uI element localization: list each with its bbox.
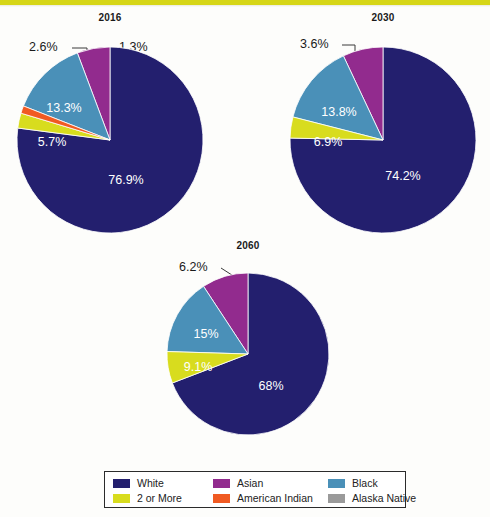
legend-item-alaska-native[interactable]: Alaska Native [328,493,416,504]
pie-value-white-2030: 74.2% [385,169,420,183]
legend-label-black: Black [352,478,378,489]
legend-swatch-white-icon [113,479,130,488]
pie-value-asian-2016: 5.7% [38,135,67,149]
chart-title-2060: 2060 [140,240,356,251]
pie-chart-2030: 2030 3.6% 74.2% 13.8% 6.9% [275,12,490,240]
legend-label-american-indian: American Indian [237,493,313,504]
pie-chart-2016: 2016 2.6% 1.3% 76.9% 13.3% [2,12,218,240]
legend-item-asian[interactable]: Asian [213,478,328,489]
top-accent-band-shadow [0,5,490,7]
pie-graphic-2030: 74.2% 13.8% 6.9% [275,42,490,242]
chart-page: 2016 2.6% 1.3% 76.9% 13.3% [0,0,490,517]
legend-swatch-american-indian-icon [213,494,230,503]
pie-graphic-2016: 76.9% 13.3% 5.7% [2,42,218,242]
pie-value-black-2030: 13.8% [321,105,356,119]
legend-swatch-black-icon [328,479,345,488]
chart-legend: White Asian Black 2 or More American Ind… [104,471,406,508]
legend-swatch-alaska-native-icon [328,494,345,503]
legend-label-two-or-more: 2 or More [137,493,182,504]
chart-title-2016: 2016 [2,12,218,23]
pie-chart-2060: 2060 6.2% 68% 15% 9.1% [140,240,356,450]
legend-item-two-or-more[interactable]: 2 or More [113,493,213,504]
legend-item-american-indian[interactable]: American Indian [213,493,328,504]
pie-value-asian-2060: 9.1% [184,360,213,374]
pie-value-white-2060: 68% [258,379,283,393]
legend-item-white[interactable]: White [113,478,213,489]
pie-value-asian-2030: 6.9% [314,135,343,149]
legend-label-asian: Asian [237,478,263,489]
legend-swatch-asian-icon [213,479,230,488]
pie-value-black-2060: 15% [193,327,218,341]
pie-graphic-2060: 68% 15% 9.1% [140,270,356,450]
legend-item-black[interactable]: Black [328,478,416,489]
pie-value-black-2016: 13.3% [46,101,81,115]
legend-label-white: White [137,478,164,489]
pie-value-white-2016: 76.9% [108,173,143,187]
legend-label-alaska-native: Alaska Native [352,493,416,504]
legend-swatch-two-or-more-icon [113,494,130,503]
chart-title-2030: 2030 [275,12,490,23]
